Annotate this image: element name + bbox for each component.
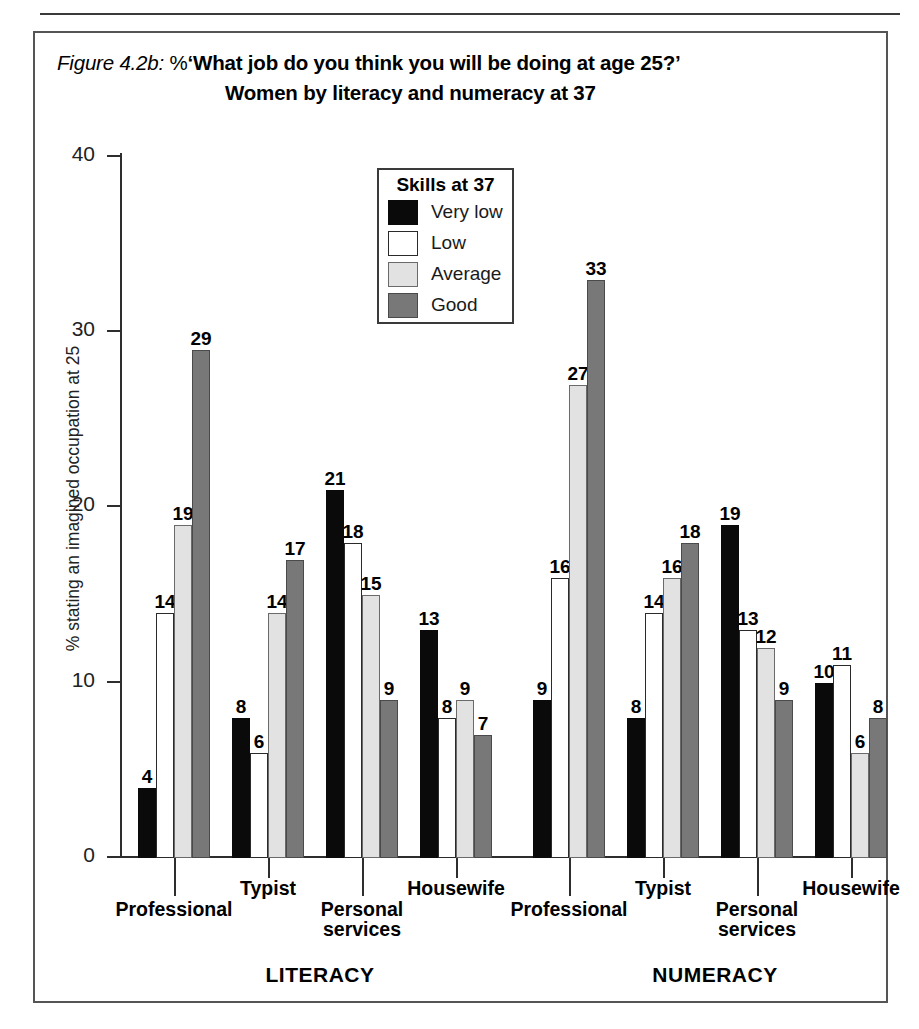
bar-literacy-personal-services-average[interactable]: 15 — [362, 595, 380, 858]
bar-numeracy-professional-average[interactable]: 27 — [569, 385, 587, 858]
legend-label-average: Average — [431, 263, 501, 285]
bar-value-label: 9 — [537, 679, 548, 698]
bar-literacy-professional-good[interactable]: 29 — [192, 350, 210, 858]
bar-value-label: 8 — [631, 697, 642, 716]
bar-literacy-housewife-average[interactable]: 9 — [456, 700, 474, 858]
bar-numeracy-personal-services-good[interactable]: 9 — [775, 700, 793, 858]
legend-item-good[interactable]: Good — [379, 290, 512, 320]
category-label-literacy-professional: Professional — [94, 899, 254, 919]
bar-value-label: 14 — [266, 592, 287, 611]
tick-numeracy-professional — [569, 858, 571, 896]
bar-value-label: 11 — [832, 644, 852, 663]
bar-value-label: 15 — [360, 574, 381, 593]
legend-item-average[interactable]: Average — [379, 259, 512, 289]
bar-numeracy-typist-low[interactable]: 14 — [645, 613, 663, 858]
bar-value-label: 29 — [190, 329, 211, 348]
legend-title: Skills at 37 — [379, 174, 512, 196]
bar-numeracy-housewife-low[interactable]: 11 — [833, 665, 851, 858]
category-label-numeracy-housewife: Housewife — [784, 878, 918, 898]
category-label-literacy-housewife: Housewife — [389, 878, 523, 898]
legend: Skills at 37 Very low Low Average Good — [377, 168, 514, 324]
bar-numeracy-personal-services-low[interactable]: 13 — [739, 630, 757, 858]
bar-value-label: 6 — [254, 732, 265, 751]
bar-literacy-housewife-very-low[interactable]: 13 — [420, 630, 438, 858]
group-label-literacy: LITERACY — [220, 963, 420, 987]
bar-literacy-professional-low[interactable]: 14 — [156, 613, 174, 858]
bar-literacy-typist-very-low[interactable]: 8 — [232, 718, 250, 858]
legend-label-very-low: Very low — [431, 201, 503, 223]
bar-literacy-housewife-good[interactable]: 7 — [474, 735, 492, 858]
tick-literacy-personal-services — [362, 858, 364, 896]
bar-numeracy-housewife-average[interactable]: 6 — [851, 753, 869, 858]
bar-value-label: 27 — [567, 364, 588, 383]
category-label-literacy-personal-services: Personal services — [303, 899, 421, 940]
bar-numeracy-personal-services-very-low[interactable]: 19 — [721, 525, 739, 858]
bar-numeracy-professional-low[interactable]: 16 — [551, 578, 569, 858]
plot-area: % stating an imagined occupation at 25 0… — [35, 33, 886, 1001]
bar-value-label: 8 — [236, 697, 247, 716]
bar-literacy-professional-very-low[interactable]: 4 — [138, 788, 156, 858]
bar-literacy-typist-low[interactable]: 6 — [250, 753, 268, 858]
tick-numeracy-personal-services — [757, 858, 759, 896]
bar-literacy-typist-average[interactable]: 14 — [268, 613, 286, 858]
bars-layer: 4 14 19 29 8 6 14 17 21 18 15 9 13 8 9 7 — [35, 33, 886, 858]
bar-literacy-housewife-low[interactable]: 8 — [438, 718, 456, 858]
legend-item-very-low[interactable]: Very low — [379, 197, 512, 227]
legend-label-good: Good — [431, 294, 477, 316]
figure-page: Figure 4.2b: %‘What job do you think you… — [0, 0, 919, 1029]
tick-literacy-typist — [268, 858, 270, 878]
bar-value-label: 33 — [585, 259, 606, 278]
page-top-rule — [40, 13, 900, 15]
bar-value-label: 8 — [873, 697, 884, 716]
category-label-numeracy-professional: Professional — [489, 899, 649, 919]
bar-value-label: 19 — [719, 504, 740, 523]
bar-value-label: 18 — [679, 522, 700, 541]
legend-swatch-very-low-icon — [388, 200, 418, 225]
bar-value-label: 16 — [549, 557, 570, 576]
bar-numeracy-professional-very-low[interactable]: 9 — [533, 700, 551, 858]
bar-value-label: 9 — [779, 679, 790, 698]
group-label-numeracy: NUMERACY — [615, 963, 815, 987]
bar-value-label: 16 — [661, 557, 682, 576]
tick-literacy-housewife — [456, 858, 458, 878]
tick-literacy-professional — [174, 858, 176, 896]
bar-value-label: 12 — [755, 627, 776, 646]
legend-label-low: Low — [431, 232, 466, 254]
bar-literacy-personal-services-low[interactable]: 18 — [344, 543, 362, 858]
category-label-numeracy-typist: Typist — [608, 878, 718, 898]
bar-numeracy-typist-good[interactable]: 18 — [681, 543, 699, 858]
legend-swatch-average-icon — [388, 262, 418, 287]
bar-value-label: 10 — [813, 662, 834, 681]
bar-value-label: 14 — [643, 592, 664, 611]
bar-literacy-professional-average[interactable]: 19 — [174, 525, 192, 858]
category-label-literacy-typist: Typist — [213, 878, 323, 898]
bar-numeracy-typist-very-low[interactable]: 8 — [627, 718, 645, 858]
bar-numeracy-housewife-very-low[interactable]: 10 — [815, 683, 833, 858]
bar-numeracy-housewife-good[interactable]: 8 — [869, 718, 887, 858]
bar-literacy-typist-good[interactable]: 17 — [286, 560, 304, 858]
bar-numeracy-professional-good[interactable]: 33 — [587, 280, 605, 858]
bar-value-label: 8 — [442, 697, 453, 716]
bar-value-label: 19 — [172, 504, 193, 523]
bar-numeracy-personal-services-average[interactable]: 12 — [757, 648, 775, 858]
bar-value-label: 13 — [418, 609, 439, 628]
bar-literacy-personal-services-very-low[interactable]: 21 — [326, 490, 344, 858]
bar-value-label: 4 — [142, 767, 153, 786]
legend-item-low[interactable]: Low — [379, 228, 512, 258]
bar-value-label: 18 — [342, 522, 363, 541]
bar-value-label: 7 — [478, 714, 489, 733]
bar-numeracy-typist-average[interactable]: 16 — [663, 578, 681, 858]
figure-frame: Figure 4.2b: %‘What job do you think you… — [33, 31, 888, 1003]
bar-value-label: 21 — [324, 469, 345, 488]
tick-numeracy-typist — [663, 858, 665, 878]
bar-value-label: 6 — [855, 732, 866, 751]
bar-value-label: 17 — [284, 539, 305, 558]
bar-value-label: 14 — [154, 592, 175, 611]
tick-numeracy-housewife — [851, 858, 853, 878]
bar-value-label: 9 — [460, 679, 471, 698]
bar-literacy-personal-services-good[interactable]: 9 — [380, 700, 398, 858]
legend-swatch-low-icon — [388, 231, 418, 256]
legend-swatch-good-icon — [388, 293, 418, 318]
category-label-numeracy-personal-services: Personal services — [698, 899, 816, 940]
bar-value-label: 9 — [384, 679, 395, 698]
